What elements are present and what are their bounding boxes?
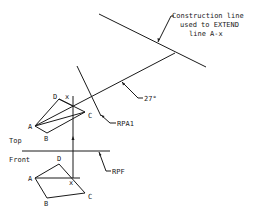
arrowhead-icon — [99, 152, 102, 156]
line-a-x-extended — [35, 53, 175, 126]
top-point-d: D — [53, 93, 57, 101]
angle-label: 27° — [144, 95, 157, 103]
view-label-front: Front — [9, 156, 30, 164]
rpf-label: RPF — [112, 168, 125, 176]
diagram-canvas: Construction line used to EXTEND line A-… — [0, 0, 257, 218]
construction-line-label-3: line A-x — [189, 30, 223, 38]
front-point-b: B — [44, 200, 48, 208]
construction-line-label-1: Construction line — [172, 12, 244, 20]
front-point-a: A — [28, 175, 33, 183]
view-label-top: Top — [9, 137, 22, 145]
top-point-b: B — [44, 135, 48, 143]
construction-line-label-2: used to EXTEND — [180, 21, 239, 29]
top-point-x: x — [65, 93, 69, 101]
arrowhead-icon — [72, 136, 75, 140]
rpa1-label: RPA1 — [117, 120, 134, 128]
front-point-x: x — [69, 179, 73, 187]
top-view-line-a-c — [35, 112, 85, 126]
front-point-d: D — [57, 155, 61, 163]
top-point-a: A — [28, 123, 33, 131]
angle-leader — [122, 82, 143, 98]
front-point-c: C — [88, 193, 92, 201]
top-point-c: C — [88, 112, 92, 120]
front-view-plane — [35, 164, 85, 198]
rpa1-line — [77, 66, 101, 116]
